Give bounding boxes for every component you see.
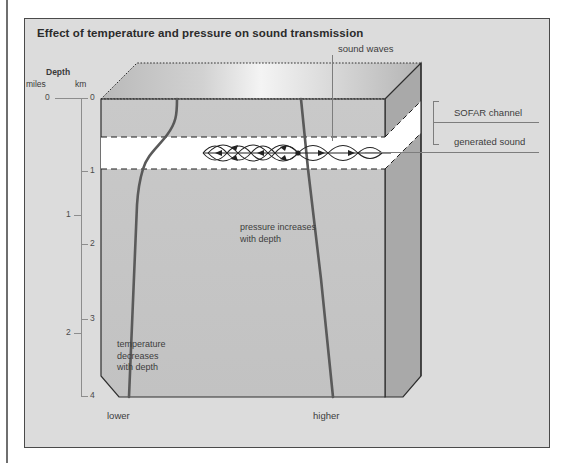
scale-label-lower: lower — [107, 410, 130, 421]
sofar-bracket-bottom — [433, 144, 439, 145]
sofar-channel-leader — [433, 122, 539, 123]
sea-surface-face — [101, 63, 421, 99]
sound-waves-leader — [332, 55, 333, 141]
temperature-note: temperature decreases with depth — [117, 339, 166, 374]
sofar-bracket-vertical — [433, 101, 434, 145]
figure-root: Effect of temperature and pressure on so… — [0, 0, 564, 463]
temperature-note-line-2: decreases — [117, 351, 159, 361]
sofar-channel-label: SOFAR channel — [454, 107, 522, 118]
pressure-note-line-1: pressure increases — [240, 222, 316, 232]
scale-label-higher: higher — [313, 410, 339, 421]
pressure-note-line-2: with depth — [240, 234, 281, 244]
figure-panel: Effect of temperature and pressure on so… — [24, 18, 550, 448]
pressure-note: pressure increases with depth — [240, 222, 316, 245]
temperature-note-line-1: temperature — [117, 339, 166, 349]
sound-waves-label: sound waves — [338, 43, 393, 54]
temperature-note-line-3: with depth — [117, 362, 158, 372]
generated-sound-label: generated sound — [454, 136, 525, 147]
page-margin-rule — [6, 0, 8, 463]
generated-sound-leader — [365, 152, 539, 153]
sofar-bracket-top — [433, 101, 439, 102]
